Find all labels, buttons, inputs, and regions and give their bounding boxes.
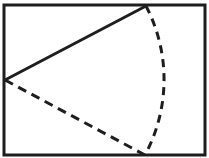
dashed-radius-line: [5, 80, 145, 155]
solid-radius-line: [5, 6, 146, 80]
dashed-arc: [145, 6, 164, 155]
sector-diagram: [0, 0, 209, 158]
